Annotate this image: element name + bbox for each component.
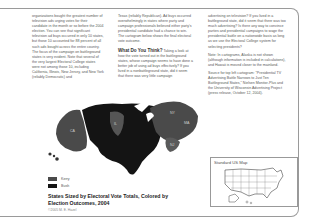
state-label-ny: NY — [170, 111, 176, 115]
legend-label-bush: Bush — [61, 184, 69, 188]
kerry-swatch — [48, 177, 57, 181]
state-label-il: IL — [114, 122, 117, 126]
standard-us-map-svg — [211, 158, 297, 206]
col3-paragraph-1: advertising on television? If you lived … — [208, 14, 288, 50]
source-paragraph: Source for top left cartogram: "Presiden… — [208, 71, 288, 96]
cartogram-svg: CA IL NY MA NJ — [42, 98, 202, 178]
legend-item-kerry: Kerry — [48, 176, 70, 182]
standard-us-map-inset: Standard US Map — [210, 157, 298, 207]
state-label-ma: MA — [184, 121, 190, 125]
state-label-ca: CA — [70, 129, 76, 133]
col1-paragraph: organizations bought the greatest number… — [32, 14, 104, 80]
us-outline — [225, 168, 283, 198]
text-column-1: organizations bought the greatest number… — [32, 14, 104, 83]
bush-swatch — [48, 184, 57, 188]
what-do-you-think-paragraph: What Do You Think? Taking a look at how … — [118, 48, 194, 80]
text-column-3: advertising on television? If you lived … — [208, 14, 288, 99]
text-column-2: Texas (reliably Republican). Ad buys occ… — [118, 14, 194, 82]
what-do-you-think-text: Taking a look at how the vote turned out… — [118, 49, 193, 78]
hawaii-region — [48, 152, 51, 155]
col2-paragraph: Texas (reliably Republican). Ad buys occ… — [118, 14, 194, 45]
map-legend: Kerry Bush — [48, 176, 70, 190]
map-caption: States Sized by Electoral Vote Totals, C… — [48, 193, 188, 207]
alaska-outline — [229, 194, 239, 202]
note-paragraph: Note: In cartograms, Alaska is not shown… — [208, 53, 288, 68]
cartogram-map: CA IL NY MA NJ — [42, 98, 202, 178]
map-credit: ©2005 M. E. Hazel — [48, 208, 77, 212]
hawaii-outline — [246, 201, 248, 203]
inset-title: Standard US Map — [214, 160, 247, 165]
what-do-you-think-heading: What Do You Think? — [118, 48, 163, 53]
legend-item-bush: Bush — [48, 183, 70, 189]
state-label-nj: NJ — [170, 143, 175, 147]
legend-label-kerry: Kerry — [61, 177, 70, 181]
